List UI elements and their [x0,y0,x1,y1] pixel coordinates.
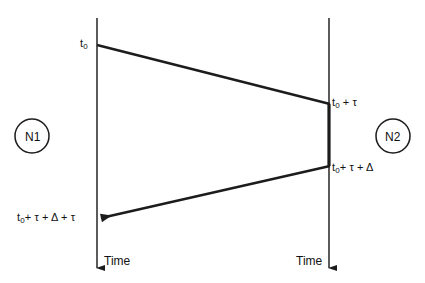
node-label-n1: N1 [25,130,40,144]
event-label-t0: t0 [80,38,88,49]
time-axis-label-n1: Time [104,254,130,268]
event-label-t0-plus-tau-plus-delta-plus-tau: t0+ τ + Δ + τ [17,212,75,223]
event-label-t0-plus-tau-plus-delta-plus-tau-subscript: 0 [20,216,25,225]
event-label-t0-subscript: 0 [83,42,88,51]
timing-diagram: t0 t0 + τ t0+ τ + Δ t0+ τ + Δ + τ N1 N2 … [0,0,425,283]
message-response-line [101,166,330,218]
event-label-t0-plus-tau: t0 + τ [332,97,357,108]
time-axis-label-n2: Time [296,254,322,268]
event-label-t0-plus-tau-rest: + τ [340,96,357,108]
event-label-t0-plus-tau-subscript: 0 [335,101,340,110]
node-label-n2: N2 [385,130,400,144]
diagram-canvas [0,0,425,283]
event-label-t0-plus-tau-plus-delta-plus-tau-rest: + τ + Δ + τ [25,211,75,223]
event-label-t0-plus-tau-plus-delta: t0+ τ + Δ [332,162,374,173]
message-request-line [97,45,330,104]
event-label-t0-plus-tau-plus-delta-subscript: 0 [335,166,340,175]
event-label-t0-plus-tau-plus-delta-rest: + τ + Δ [340,161,374,173]
